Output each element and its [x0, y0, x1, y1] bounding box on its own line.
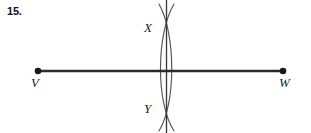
geometry-figure: 15. V W X Y: [0, 0, 311, 133]
point-label-w: W: [279, 76, 290, 89]
point-label-x: X: [144, 21, 152, 34]
construction-drawing: [0, 0, 311, 133]
endpoint-dot-v: [35, 68, 42, 75]
point-label-v: V: [31, 76, 39, 89]
endpoint-dot-w: [280, 68, 287, 75]
point-label-y: Y: [144, 102, 151, 115]
